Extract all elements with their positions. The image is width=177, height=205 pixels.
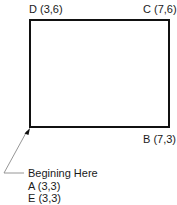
vertex-label-b: B (7,3): [143, 133, 176, 145]
vertex-label-e: E (3,3): [28, 192, 98, 205]
rectangle-shape: [30, 20, 169, 127]
vertex-label-c: C (7,6): [143, 3, 177, 15]
vertex-label-d: D (3,6): [29, 3, 63, 15]
vertex-label-a: A (3,3): [28, 180, 98, 193]
start-annotation: Begining Here A (3,3) E (3,3): [28, 167, 98, 205]
annotation-title: Begining Here: [28, 167, 98, 180]
leader-line: [4, 131, 27, 173]
